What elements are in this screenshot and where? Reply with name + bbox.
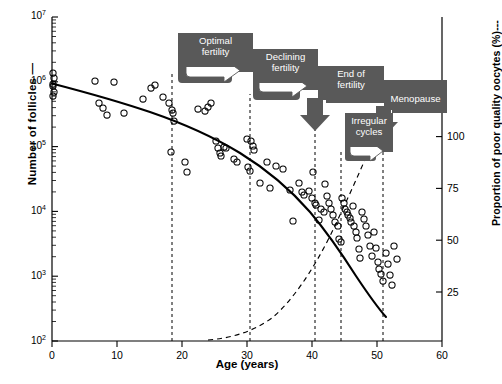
callout-declining-fertility-line2: fertility <box>266 63 305 74</box>
callout-irregular-cycles: Irregular cycles <box>345 113 393 147</box>
callout-optimal-fertility-line2: fertility <box>199 47 232 58</box>
y-tick-label-1e2: 102 <box>6 334 46 346</box>
callout-optimal-fertility-line1: Optimal <box>199 36 232 47</box>
right-tick-label-25: 25 <box>447 286 477 298</box>
y-tick-1e7-exp: 7 <box>42 9 46 16</box>
y-tick-label-1e7: 107 <box>6 9 46 21</box>
y-tick-label-1e3: 103 <box>6 269 46 281</box>
y-tick-1e3-base: 10 <box>31 270 42 281</box>
callout-optimal-fertility: Optimal fertility <box>178 33 253 67</box>
right-tick-label-50: 50 <box>447 234 477 246</box>
callout-end-of-fertility: End of fertility <box>318 66 384 100</box>
y-tick-1e6-exp: 6 <box>42 74 46 81</box>
right-tick-label-100: 100 <box>447 130 477 142</box>
x-axis-ticks <box>52 341 442 347</box>
y-axis-title-left: Number of follicles — <box>26 34 38 214</box>
callout-menopause-line1: Menopause <box>390 94 440 105</box>
callout-menopause: Menopause <box>384 88 447 110</box>
y-axis-title-right: Proportion of poor quality oocytes (%)--… <box>490 26 502 226</box>
y-tick-1e2-exp: 2 <box>42 334 46 341</box>
callout-declining-fertility-line1: Declining <box>266 52 305 63</box>
y-tick-1e4-exp: 4 <box>42 204 46 211</box>
y-axis-major-ticks <box>52 17 58 341</box>
right-tick-label-75: 75 <box>447 182 477 194</box>
callout-irregular-cycles-line1: Irregular <box>351 116 387 127</box>
y-tick-1e7-base: 10 <box>31 10 42 21</box>
y-tick-1e3-exp: 3 <box>42 269 46 276</box>
x-axis-title: Age (years) <box>52 358 442 370</box>
callout-irregular-cycles-line2: cycles <box>351 127 387 138</box>
y-tick-1e2-base: 10 <box>31 335 42 346</box>
right-axis-ticks <box>436 137 442 292</box>
callout-declining-fertility: Declining fertility <box>253 49 318 83</box>
callout-end-of-fertility-line1: End of <box>337 69 365 80</box>
y-tick-1e5-exp: 5 <box>42 139 46 146</box>
callout-end-of-fertility-line2: fertility <box>337 80 365 91</box>
follicle-decline-curve <box>52 83 386 317</box>
